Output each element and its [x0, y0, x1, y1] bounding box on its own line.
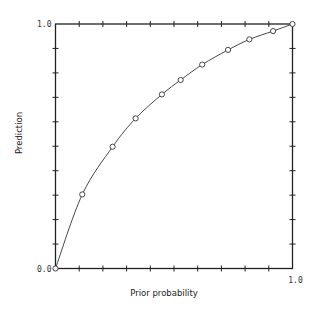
data-point-marker: [270, 28, 275, 33]
data-point-marker: [53, 266, 58, 271]
data-point-marker: [225, 47, 230, 52]
data-point-marker: [247, 37, 252, 42]
data-point-marker: [80, 192, 85, 197]
curve-line: [56, 24, 293, 269]
y-tick-label: 1.0: [37, 20, 52, 29]
y-axis-title: Prediction: [14, 112, 24, 154]
axis-ticks: [53, 21, 296, 272]
x-tick-label: 1.0: [288, 276, 303, 285]
data-series: [53, 21, 295, 271]
data-point-marker: [290, 21, 295, 26]
x-axis-title: Prior probability: [130, 288, 198, 298]
plot-border: [56, 24, 293, 269]
plot-frame: [56, 24, 293, 269]
y-tick-label: 0.0: [37, 265, 52, 274]
data-point-marker: [159, 92, 164, 97]
data-point-marker: [110, 144, 115, 149]
data-point-marker: [178, 77, 183, 82]
data-point-marker: [133, 116, 138, 121]
tick-labels: 0.01.01.0: [37, 20, 303, 285]
chart: 0.01.01.0 Prior probability Prediction: [0, 0, 320, 312]
data-point-marker: [200, 62, 205, 67]
